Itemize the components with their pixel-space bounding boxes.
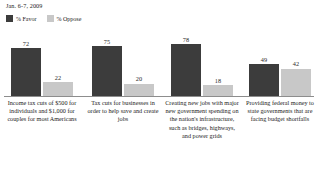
bar-oppose [43, 82, 73, 97]
legend-swatch-icon [47, 15, 54, 22]
bar-value-label: 20 [136, 75, 142, 82]
bar-group: 75 20 [84, 27, 162, 97]
chart-legend: % Favor % Oppose [6, 15, 81, 22]
category-label: Providing federal money to state governm… [242, 99, 318, 140]
bar-value-label: 22 [55, 74, 61, 81]
bar-item-oppose: 22 [43, 27, 73, 97]
category-label: Income tax cuts of $500 for individuals … [0, 99, 84, 140]
plot-area: 72 22 75 20 78 [0, 27, 318, 97]
bar-item-favor: 75 [92, 27, 122, 97]
legend-label-oppose: % Oppose [57, 16, 82, 22]
bar-favor [92, 46, 122, 97]
bar-groups: 72 22 75 20 78 [0, 27, 318, 97]
bar-oppose [124, 84, 154, 98]
legend-label-favor: % Favor [16, 16, 37, 22]
bar-group: 72 22 [0, 27, 84, 97]
bar-value-label: 42 [293, 60, 299, 67]
legend-item-favor: % Favor [6, 15, 37, 22]
bar-value-label: 75 [104, 38, 110, 45]
chart-figure: Jan. 6-7, 2009 % Favor % Oppose 72 22 [0, 0, 318, 179]
bar-item-oppose: 20 [124, 27, 154, 97]
bar-item-favor: 49 [249, 27, 279, 97]
bar-value-label: 72 [23, 40, 29, 47]
bar-favor [11, 48, 41, 97]
bar-favor [249, 64, 279, 97]
legend-item-oppose: % Oppose [47, 15, 82, 22]
bar-favor [171, 44, 201, 97]
bar-value-label: 78 [183, 36, 189, 43]
bar-item-oppose: 18 [203, 27, 233, 97]
bar-item-oppose: 42 [281, 27, 311, 97]
x-axis-baseline [4, 96, 314, 97]
bar-oppose [281, 69, 311, 98]
bar-item-favor: 78 [171, 27, 201, 97]
bar-value-label: 49 [261, 56, 267, 63]
legend-swatch-icon [6, 15, 13, 22]
category-label: Creating new jobs with major new governm… [162, 99, 242, 140]
date-caption: Jan. 6-7, 2009 [6, 2, 42, 9]
bar-group: 49 42 [242, 27, 318, 97]
category-labels: Income tax cuts of $500 for individuals … [0, 99, 318, 140]
category-label: Tax cuts for businesses in order to help… [84, 99, 162, 140]
bar-group: 78 18 [162, 27, 242, 97]
bar-item-favor: 72 [11, 27, 41, 97]
bar-value-label: 18 [215, 77, 221, 84]
